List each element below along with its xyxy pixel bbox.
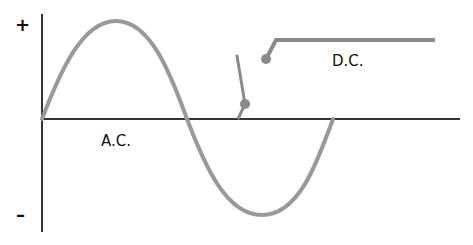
minus-label: – [16,204,25,225]
plus-label: + [15,14,30,35]
ac-dc-diagram [0,0,473,245]
switch-lever [237,56,245,104]
dc-contact-dot [261,54,271,64]
switch-pivot-dot [240,99,250,109]
dc-label: D.C. [332,52,364,70]
ac-label: A.C. [101,132,131,150]
